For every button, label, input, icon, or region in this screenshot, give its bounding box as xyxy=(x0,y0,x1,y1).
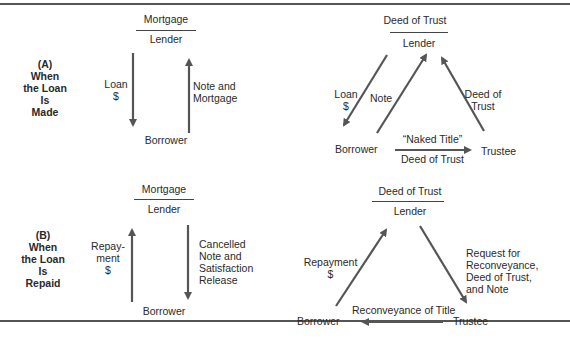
b-mortgage-lender: Lender xyxy=(134,203,194,215)
a-mortgage-lender: Lender xyxy=(136,33,196,45)
b-mortgage-borrower: Borrower xyxy=(134,305,194,317)
b-deed-repayment-label: Repayment $ xyxy=(303,256,358,280)
a-deed-instrument: Deed of Trust xyxy=(380,14,450,26)
a-deed-lender: Lender xyxy=(390,37,448,49)
b-deed-lender: Lender xyxy=(380,205,440,217)
section-b-label: (B) When the Loan Is Repaid xyxy=(18,229,68,289)
b-cancelled-label: Cancelled Note and Satisfaction Release xyxy=(199,238,253,286)
a-mortgage-instrument: Mortgage xyxy=(136,13,196,25)
a-deed-of-trust-label: Deed of Trust xyxy=(395,153,470,165)
b-mortgage-divider xyxy=(134,199,194,200)
a-mortgage-divider xyxy=(136,30,196,31)
b-deed-divider xyxy=(372,201,444,202)
b-repayment-label: Repay- ment $ xyxy=(88,240,128,276)
b-deed-borrower: Borrower xyxy=(297,315,340,327)
b-reconveyance-label: Reconveyance of Title xyxy=(352,304,455,316)
a-mortgage-borrower: Borrower xyxy=(136,134,196,146)
b-request-label: Request for Reconveyance, Deed of Trust,… xyxy=(466,247,538,295)
b-deed-instrument: Deed of Trust xyxy=(370,185,450,197)
a-deed-note-label: Note xyxy=(370,92,392,104)
a-deed-borrower: Borrower xyxy=(335,143,378,155)
a-naked-title-label: “Naked Title” xyxy=(395,133,470,145)
b-deed-trustee: Trustee xyxy=(453,315,488,327)
a-deed-loan-label: Loan $ xyxy=(331,88,361,112)
a-loan-label: Loan $ xyxy=(100,78,132,102)
a-deed-deed-label: Deed of Trust xyxy=(463,88,503,112)
b-mortgage-instrument: Mortgage xyxy=(134,183,194,195)
a-deed-divider xyxy=(390,32,448,33)
arrow-request-diag xyxy=(420,226,466,302)
a-deed-trustee: Trustee xyxy=(481,145,516,157)
a-note-mortgage-label: Note and Mortgage xyxy=(193,80,237,104)
section-a-label: (A) When the Loan Is Made xyxy=(20,58,70,118)
